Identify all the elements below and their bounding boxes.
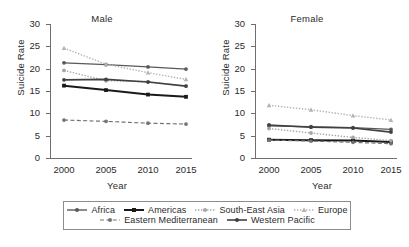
series-layer-male	[50, 24, 192, 158]
x-axis-label-male: Year	[42, 180, 192, 191]
data-point-marker	[389, 130, 393, 134]
data-point-marker	[267, 103, 272, 107]
data-point-marker	[62, 61, 66, 65]
plot-area-male: 051015202530 2000200520102015	[50, 24, 192, 158]
legend-item-label: Africa	[91, 205, 115, 215]
data-point-marker	[62, 78, 66, 82]
x-tick-label: 2005	[88, 164, 124, 175]
data-point-marker	[351, 140, 355, 144]
chart-panel-male: Male Suicide Rate 051015202530 200020052…	[2, 0, 202, 198]
y-tick-label: 25	[225, 40, 245, 51]
legend-item[interactable]: Europe	[293, 205, 348, 215]
y-tick-label: 25	[20, 40, 40, 51]
y-tick-label: 15	[225, 85, 245, 96]
legend-swatch	[293, 205, 315, 215]
y-tick-label: 20	[225, 63, 245, 74]
data-point-marker	[104, 88, 108, 92]
x-tick-label: 2010	[130, 164, 166, 175]
legend-item-label: Americas	[148, 205, 186, 215]
data-point-marker	[184, 84, 188, 88]
x-tick-label: 2000	[251, 164, 287, 175]
data-point-marker	[146, 121, 150, 125]
y-tick-label: 10	[20, 107, 40, 118]
legend-item-label: Western Pacific	[251, 215, 315, 225]
legend-swatch	[99, 215, 121, 225]
y-tick-label: 10	[225, 107, 245, 118]
data-point-marker	[146, 80, 150, 84]
legend-row-secondary: Eastern MediterraneanWestern Pacific	[68, 215, 346, 225]
data-point-marker	[184, 122, 188, 126]
legend-item[interactable]: Americas	[123, 205, 186, 215]
data-point-marker	[267, 127, 271, 131]
y-tick-label: 15	[20, 85, 40, 96]
legend-item-label: South-East Asia	[219, 205, 285, 215]
x-tick-label: 2015	[373, 164, 409, 175]
y-tick-label: 0	[225, 152, 245, 163]
legend-swatch	[66, 205, 88, 215]
chart-panel-female: Female Suicide Rate 051015202530 2000200…	[207, 0, 407, 198]
data-point-marker	[62, 46, 67, 50]
data-point-marker	[389, 142, 393, 146]
legend-swatch	[194, 205, 216, 215]
y-tick-label: 5	[20, 130, 40, 141]
data-point-marker	[351, 136, 355, 140]
legend-item[interactable]: Africa	[66, 205, 115, 215]
data-point-marker	[309, 107, 314, 111]
data-point-marker	[267, 138, 271, 142]
data-point-marker	[146, 93, 150, 97]
legend-item[interactable]: Western Pacific	[226, 215, 315, 225]
x-axis-line-male	[50, 158, 192, 159]
y-tick-mark: 0	[46, 158, 50, 159]
data-point-marker	[62, 118, 66, 122]
legend-item[interactable]: South-East Asia	[194, 205, 285, 215]
series-line	[64, 79, 186, 86]
data-point-marker	[267, 123, 271, 127]
data-point-marker	[309, 139, 313, 143]
legend: AfricaAmericasSouth-East AsiaEurope East…	[63, 201, 351, 230]
y-tick-label: 30	[20, 18, 40, 29]
series-layer-female	[255, 24, 397, 158]
legend-swatch	[226, 215, 248, 225]
legend-item-label: Europe	[318, 205, 348, 215]
series-line	[64, 120, 186, 124]
y-tick-label: 30	[225, 18, 245, 29]
data-point-marker	[146, 70, 151, 74]
legend-item-label: Eastern Mediterranean	[124, 215, 218, 225]
x-axis-label-female: Year	[247, 180, 397, 191]
legend-row-primary: AfricaAmericasSouth-East AsiaEurope	[68, 205, 346, 215]
y-tick-label: 5	[225, 130, 245, 141]
data-point-marker	[62, 84, 66, 88]
x-tick-label: 2000	[46, 164, 82, 175]
data-point-marker	[146, 65, 150, 69]
data-point-marker	[184, 77, 189, 81]
legend-swatch	[123, 205, 145, 215]
data-point-marker	[351, 126, 355, 130]
data-point-marker	[184, 67, 188, 71]
data-point-marker	[184, 95, 188, 99]
data-point-marker	[309, 131, 313, 135]
data-point-marker	[104, 119, 108, 123]
y-tick-label: 20	[20, 63, 40, 74]
series-line	[64, 86, 186, 97]
data-point-marker	[62, 69, 66, 73]
x-tick-label: 2005	[293, 164, 329, 175]
data-point-marker	[351, 113, 356, 117]
series-line	[269, 105, 391, 120]
suicide-rate-figure: Male Suicide Rate 051015202530 200020052…	[0, 0, 409, 247]
data-point-marker	[104, 77, 108, 81]
legend-item[interactable]: Eastern Mediterranean	[99, 215, 218, 225]
x-tick-label: 2015	[168, 164, 204, 175]
x-axis-line-female	[255, 158, 397, 159]
x-tick-label: 2010	[335, 164, 371, 175]
y-tick-mark: 0	[251, 158, 255, 159]
data-point-marker	[309, 125, 313, 129]
plot-area-female: 051015202530 2000200520102015	[255, 24, 397, 158]
y-tick-label: 0	[20, 152, 40, 163]
